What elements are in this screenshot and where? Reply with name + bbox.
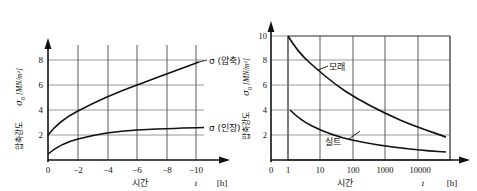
right-x-axis-unit: [h] xyxy=(447,178,458,188)
left-y-tick-8: 8 xyxy=(39,55,44,65)
left-x-axis-symbol: t xyxy=(195,178,198,188)
left-y-tick-6: 6 xyxy=(39,80,44,90)
right-x-tick-1000: 1000 xyxy=(377,165,394,175)
left-x-tick-0: 0 xyxy=(46,165,51,175)
right-chart: 10 8 6 4 2 0 1 10 100 1000 10000 시간 t [h… xyxy=(241,21,470,188)
right-y-axis-symbol-subscript: 0 xyxy=(247,87,253,90)
left-x-tick-m8: −8 xyxy=(162,165,172,175)
left-y-axis-unit: [MN/m²] xyxy=(15,68,24,95)
left-chart-y-axis-title: 압축강도 σ 0 [MN/m²] xyxy=(14,68,26,150)
two-chart-figure: 8 6 4 2 0 −2 −4 −6 −8 −10 시간 t [h] 압축강도 … xyxy=(0,0,477,191)
right-curve-label-silt: 실트 xyxy=(325,137,341,147)
right-curve-sand xyxy=(288,36,446,137)
right-curve-label-sand: 모래 xyxy=(329,62,345,72)
right-chart-y-tick-labels: 10 8 6 4 2 xyxy=(259,31,268,140)
right-y-axis-unit: [MN/m²] xyxy=(242,58,251,85)
left-y-axis-label-korean: 압축강도 xyxy=(14,122,24,150)
right-chart-y-axis xyxy=(268,21,275,162)
right-chart-y-axis-title: 압축강도 σ 0 [MN/m²] xyxy=(241,58,253,140)
left-curve-label-compression: σ (압축) xyxy=(209,55,241,66)
left-x-tick-m6: −6 xyxy=(132,165,142,175)
right-x-tick-10: 10 xyxy=(316,165,325,175)
left-y-tick-2: 2 xyxy=(39,130,44,140)
right-chart-plot-frame xyxy=(288,36,450,160)
right-x-tick-1: 1 xyxy=(286,165,290,175)
left-curve-label-tension: σ (인장) xyxy=(209,123,241,133)
left-chart: 8 6 4 2 0 −2 −4 −6 −8 −10 시간 t [h] 압축강도 … xyxy=(14,38,241,188)
left-x-axis-arrowhead xyxy=(219,157,230,164)
right-chart-vertical-gridlines xyxy=(288,36,450,160)
right-x-tick-100: 100 xyxy=(347,165,360,175)
right-x-axis-symbol: t xyxy=(422,178,425,188)
left-x-tick-m4: −4 xyxy=(103,165,113,175)
left-curve-compression xyxy=(48,62,199,135)
left-y-axis-arrowhead xyxy=(45,38,52,49)
left-curve-label-tension-group: σ (인장) xyxy=(209,123,241,133)
right-chart-x-tick-labels: 0 1 10 100 1000 10000 xyxy=(269,165,431,175)
right-curve-label-sand-group: 모래 xyxy=(318,62,345,72)
left-chart-x-axis-title: 시간 t [h] xyxy=(132,178,227,188)
right-y-tick-2: 2 xyxy=(263,130,267,140)
right-leader-sand xyxy=(318,66,328,70)
left-y-axis-symbol-subscript: 0 xyxy=(20,97,26,100)
left-chart-y-axis xyxy=(45,38,52,162)
left-chart-x-tick-labels: 0 −2 −4 −6 −8 −10 xyxy=(46,165,204,175)
right-y-axis-arrowhead xyxy=(268,21,275,32)
right-x-axis-arrowhead xyxy=(459,157,470,164)
left-curve-tension xyxy=(48,128,204,155)
right-y-axis-label-korean: 압축강도 xyxy=(241,112,251,140)
right-x-tick-0: 0 xyxy=(269,165,273,175)
figure-svg: 8 6 4 2 0 −2 −4 −6 −8 −10 시간 t [h] 압축강도 … xyxy=(0,0,477,191)
right-chart-x-axis xyxy=(271,157,470,164)
left-y-tick-4: 4 xyxy=(39,105,44,115)
left-x-axis-label-korean: 시간 xyxy=(132,178,148,188)
right-x-axis-label-korean: 시간 xyxy=(337,178,353,188)
right-y-tick-10: 10 xyxy=(259,31,268,41)
right-x-tick-10000: 10000 xyxy=(409,165,430,175)
left-chart-y-tick-labels: 8 6 4 2 xyxy=(39,55,44,140)
right-chart-x-axis-title: 시간 t [h] xyxy=(337,178,457,188)
left-x-tick-m10: −10 xyxy=(189,165,204,175)
left-x-tick-m2: −2 xyxy=(73,165,83,175)
left-chart-x-axis xyxy=(48,157,230,164)
right-curve-silt xyxy=(290,110,446,152)
right-y-tick-4: 4 xyxy=(263,105,268,115)
left-chart-horizontal-gridlines xyxy=(48,60,204,135)
right-y-tick-6: 6 xyxy=(263,80,267,90)
right-y-tick-8: 8 xyxy=(263,55,267,65)
left-x-axis-unit: [h] xyxy=(217,178,228,188)
left-curve-label-compression-group: σ (압축) xyxy=(199,55,241,66)
